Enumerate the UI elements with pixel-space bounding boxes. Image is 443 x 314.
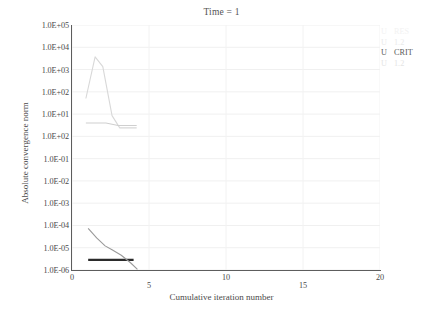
x-tick-label: 15 (299, 281, 307, 290)
y-tick-label: 1.0E+01 (42, 110, 69, 119)
y-tick-label: 1.0E+03 (42, 65, 69, 74)
y-tick-label: 1.0E+02 (42, 87, 69, 96)
y-tick-label: 1.0E+02 (42, 132, 69, 141)
legend-label: CRIT (394, 48, 443, 59)
legend-symbol: U (381, 48, 394, 59)
y-axis-title: Absolute convergence norm (20, 68, 30, 238)
legend-item: URES (381, 27, 443, 38)
legend-label: 1.2 (394, 38, 443, 49)
y-tick-label: 1.0E-06 (44, 266, 69, 275)
series-line-3 (88, 228, 137, 269)
y-tick-label: 1.0E-03 (44, 199, 69, 208)
legend-symbol: U (381, 59, 394, 70)
x-tick-label: 20 (376, 273, 384, 282)
legend-label: 1.2 (394, 59, 443, 70)
data-series-layer (72, 25, 380, 270)
x-tick-label: 10 (222, 273, 230, 282)
y-tick-label: 1.0E+05 (42, 21, 69, 30)
x-tick-label: 5 (147, 281, 151, 290)
legend-symbol: U (381, 27, 394, 38)
legend-item: UCRIT (381, 48, 443, 59)
y-tick-label: 1.0E-04 (44, 221, 69, 230)
series-line-0 (86, 57, 137, 128)
legend-symbol: U (381, 38, 394, 49)
y-tick-label: 1.0E-01 (44, 154, 69, 163)
chart-title: Time = 1 (0, 7, 443, 17)
x-tick-label: 0 (70, 273, 74, 282)
y-tick-label: 1.0E+04 (42, 43, 69, 52)
convergence-chart-figure: Time = 1 1.0E+051.0E+041.0E+031.0E+021.0… (0, 0, 443, 314)
series-line-1 (86, 123, 137, 125)
legend-item: U1.2 (381, 59, 443, 70)
x-axis-line (71, 270, 381, 271)
chart-legend: URESU1.2UCRITU1.2 (381, 27, 443, 69)
legend-label: RES (394, 27, 443, 38)
y-tick-label: 1.0E-02 (44, 176, 69, 185)
y-tick-label: 1.0E-05 (44, 243, 69, 252)
x-axis-title: Cumulative iteration number (0, 292, 443, 302)
legend-item: U1.2 (381, 38, 443, 49)
plot-area (72, 25, 380, 270)
